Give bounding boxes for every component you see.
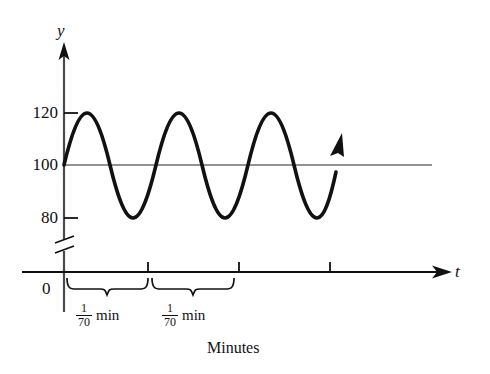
fraction-denominator: 70 xyxy=(162,316,178,329)
origin-label: 0 xyxy=(42,280,51,297)
figure-sinusoid-graph: y t 120 100 80 0 1 70 min 1 70 min Minut… xyxy=(0,0,490,374)
t-axis-label: t xyxy=(455,263,460,280)
period-label-2: 1 70 min xyxy=(162,302,205,328)
brace-period-2 xyxy=(152,278,234,295)
sinusoid-curve-arrowhead xyxy=(330,133,344,157)
fraction-one-seventieth-1: 1 70 xyxy=(76,302,92,328)
fraction-numerator: 1 xyxy=(165,302,175,315)
y-tick-label-80: 80 xyxy=(18,209,58,226)
fraction-denominator: 70 xyxy=(76,316,92,329)
period-label-1: 1 70 min xyxy=(76,302,119,328)
y-axis-label: y xyxy=(57,22,65,39)
y-tick-label-100: 100 xyxy=(18,156,58,173)
plot-canvas xyxy=(0,0,490,374)
fraction-numerator: 1 xyxy=(79,302,89,315)
period-unit-1: min xyxy=(96,308,119,323)
x-axis-title: Minutes xyxy=(207,340,259,356)
period-unit-2: min xyxy=(182,308,205,323)
y-tick-label-120: 120 xyxy=(18,104,58,121)
brace-period-1 xyxy=(67,278,148,295)
fraction-one-seventieth-2: 1 70 xyxy=(162,302,178,328)
